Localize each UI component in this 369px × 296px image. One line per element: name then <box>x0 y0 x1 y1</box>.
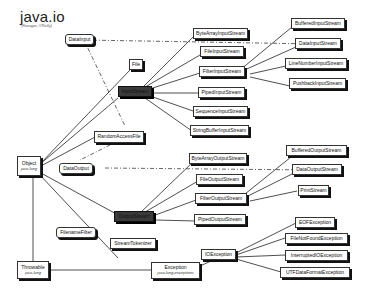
edge-outputstream-bytearray <box>140 162 193 213</box>
node-label: PrintStream <box>300 188 326 194</box>
node-label: DataOutput <box>63 166 89 172</box>
node-outputstream-abstract[interactable]: OutputStream <box>114 211 154 222</box>
edge-filter-pushback <box>250 77 290 86</box>
node-label: LineNumberInputStream <box>289 61 343 67</box>
node-label: ByteArrayInputStream <box>196 31 245 37</box>
node-label: BufferedInputStream <box>295 21 341 27</box>
edge-filterout-data <box>240 172 296 200</box>
node-file[interactable]: File <box>129 59 143 70</box>
node-label: FileInputStream <box>204 49 239 55</box>
node-streamtokenizer[interactable]: StreamTokenizer <box>110 238 156 249</box>
node-utfdataformatexception[interactable]: UTFDataFormatException <box>280 267 350 278</box>
node-stringbufferinputstream[interactable]: StringBufferInputStream <box>190 125 249 136</box>
node-label: FilenameFilter <box>60 230 92 236</box>
node-label: PushbackInputStream <box>293 81 342 87</box>
node-eofexception[interactable]: EOFException <box>295 217 335 228</box>
node-label: File <box>132 62 140 68</box>
node-inputstream-abstract[interactable]: InputStream <box>118 86 152 97</box>
node-ioexception[interactable]: IOException <box>201 249 236 260</box>
node-pipedinputstream[interactable]: PipedInputStream <box>198 87 245 98</box>
node-bufferedinputstream[interactable]: BufferedInputStream <box>291 18 345 29</box>
edge-object-file <box>39 70 130 165</box>
node-bytearrayinputstream[interactable]: ByteArrayInputStream <box>193 28 248 39</box>
node-label: FileOutputStream <box>200 177 239 183</box>
edge-object-streamtokenizer <box>39 174 118 258</box>
edge-inputstream-stringbuffer <box>145 98 192 131</box>
node-dataoutputstream[interactable]: DataOutputStream <box>292 164 342 175</box>
node-label: FilterOutputStream <box>200 196 242 202</box>
node-randomaccessfile[interactable]: RandomAccessFile <box>94 131 144 143</box>
node-label: DataInput <box>69 37 91 43</box>
node-label: PipedInputStream <box>201 90 241 96</box>
node-fileoutputstream[interactable]: FileOutputStream <box>196 174 243 185</box>
node-datainput-interface[interactable]: DataInput <box>65 34 94 45</box>
node-label: PipedOutputStream <box>198 217 242 223</box>
node-pushbackinputstream[interactable]: PushbackInputStream <box>289 78 346 89</box>
node-label: BufferedOutputStream <box>292 148 342 154</box>
node-label: FilterInputStream <box>203 69 241 75</box>
node-label: IOException <box>205 252 232 258</box>
edge-datainput-randomaccessfile <box>84 40 125 126</box>
node-linenumberinputstream[interactable]: LineNumberInputStream <box>285 58 347 69</box>
node-bufferedoutputstream[interactable]: BufferedOutputStream <box>286 145 347 156</box>
edge-datainput-datainputstream <box>84 40 316 44</box>
node-datainputstream[interactable]: DataInputStream <box>295 38 341 49</box>
node-label: InputStream <box>121 89 148 95</box>
node-fileinputstream[interactable]: FileInputStream <box>200 46 244 57</box>
node-label: ByteArrayOutputStream <box>191 156 244 162</box>
edge-filterout-buffered <box>240 153 296 198</box>
node-exception[interactable]: Exception java.lang-exceptions <box>151 262 200 279</box>
node-object[interactable]: Object java.lang <box>17 156 41 176</box>
node-label: EOFException <box>299 220 331 226</box>
node-bytearrayoutputstream[interactable]: ByteArrayOutputStream <box>189 153 247 164</box>
node-filenamefilter-interface[interactable]: FilenameFilter <box>56 227 96 238</box>
node-package: java.lang-exceptions <box>157 271 193 276</box>
node-sequenceinputstream[interactable]: SequenceInputStream <box>193 106 248 117</box>
node-interruptedioexception[interactable]: InterruptedIOException <box>285 250 348 261</box>
node-filterinputstream[interactable]: FilterInputStream <box>199 66 245 77</box>
node-throwable[interactable]: Throwable java.lang <box>17 261 49 279</box>
edge-io-interrupted <box>236 255 286 257</box>
java-io-class-hierarchy-diagram: java.io (Flanagan, O'Reilly) <box>0 0 369 296</box>
node-label: UTFDataFormatException <box>286 270 344 276</box>
node-pipedoutputstream[interactable]: PipedOutputStream <box>194 214 246 225</box>
node-label: StringBufferInputStream <box>193 128 247 134</box>
node-package: java.lang <box>21 167 37 172</box>
node-dataoutput-interface[interactable]: DataOutput <box>59 163 93 174</box>
node-label: OutputStream <box>118 214 149 220</box>
edge-outputstream-filter <box>150 200 196 217</box>
node-filenotfoundexception[interactable]: FileNotFoundException <box>285 233 348 244</box>
edge-filterout-print <box>250 191 297 201</box>
node-package: java.lang <box>25 271 41 276</box>
edge-outputstream-piped <box>155 220 196 221</box>
edge-dataoutput-randomaccessfile <box>80 145 110 160</box>
node-filteroutputstream[interactable]: FilterOutputStream <box>195 193 247 204</box>
edge-dataoutput-dataoutputstream <box>105 168 315 170</box>
node-printstream[interactable]: PrintStream <box>298 185 329 196</box>
node-label: DataOutputStream <box>296 167 338 173</box>
node-label: InterruptedIOException <box>291 253 342 259</box>
node-label: SequenceInputStream <box>196 109 246 115</box>
edge-object-outputstream <box>39 172 120 216</box>
edge-filter-linenumber <box>250 66 286 74</box>
edge-io-utf <box>236 259 281 272</box>
edge-inputstream-sequence <box>150 96 196 112</box>
node-label: RandomAccessFile <box>97 134 140 140</box>
node-label: DataInputStream <box>299 41 337 47</box>
node-label: StreamTokenizer <box>114 241 152 247</box>
node-label: FileNotFoundException <box>291 236 343 242</box>
